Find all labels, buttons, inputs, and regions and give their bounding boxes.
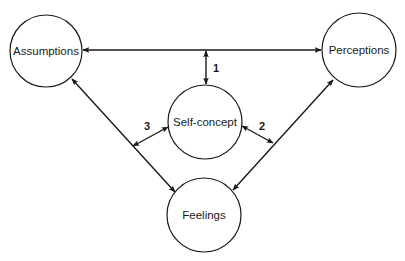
node-assumptions: Assumptions	[10, 15, 82, 87]
diagram-canvas: Assumptions Perceptions Self-concept Fee…	[0, 0, 405, 261]
edge-perceptions-feelings	[233, 80, 333, 190]
diagram-svg: Assumptions Perceptions Self-concept Fee…	[0, 0, 405, 261]
edge-2-arrow	[242, 126, 273, 143]
edge-3-arrow	[133, 127, 168, 146]
self-concept-label: Self-concept	[173, 116, 238, 128]
edge-2-label: 2	[259, 120, 265, 132]
assumptions-label: Assumptions	[13, 45, 79, 57]
node-feelings: Feelings	[167, 178, 241, 252]
node-self-concept: Self-concept	[168, 85, 242, 159]
edge-3-label: 3	[144, 120, 150, 132]
perceptions-label: Perceptions	[329, 44, 390, 56]
edge-assumptions-feelings	[72, 79, 175, 192]
node-perceptions: Perceptions	[322, 13, 396, 87]
feelings-label: Feelings	[182, 209, 226, 221]
edge-1-label: 1	[213, 62, 219, 74]
